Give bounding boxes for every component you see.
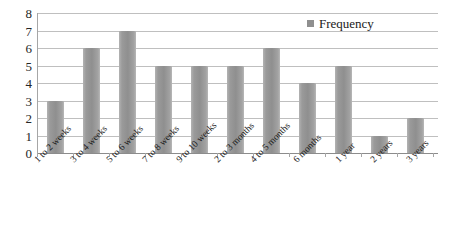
y-tick-label: 7	[26, 24, 33, 37]
chart-legend[interactable]: Frequency	[307, 17, 374, 30]
y-tick-label: 1	[26, 129, 33, 142]
y-tick-label: 8	[26, 7, 33, 20]
y-tick-label: 5	[26, 59, 33, 72]
x-tick	[397, 153, 398, 157]
caption-strip	[0, 231, 450, 241]
bar-1-year[interactable]	[335, 66, 352, 154]
legend-label: Frequency	[319, 17, 374, 30]
bar-chart: 8 7 6 5 4 3 2 1 0	[0, 0, 450, 241]
x-tick	[433, 153, 434, 157]
y-tick-label: 0	[26, 147, 33, 160]
y-tick-label: 4	[26, 77, 33, 90]
y-tick-label: 2	[26, 112, 33, 125]
y-axis: 8 7 6 5 4 3 2 1 0	[0, 0, 36, 160]
x-axis-labels: 1 to 2 weeks 3 to 4 weeks 5 to 6 weeks 7…	[37, 158, 438, 220]
y-tick-label: 3	[26, 94, 33, 107]
y-tick-label: 6	[26, 42, 33, 55]
legend-swatch-icon	[307, 20, 314, 27]
x-tick	[325, 153, 326, 157]
x-tick	[361, 153, 362, 157]
x-tick	[289, 153, 290, 157]
